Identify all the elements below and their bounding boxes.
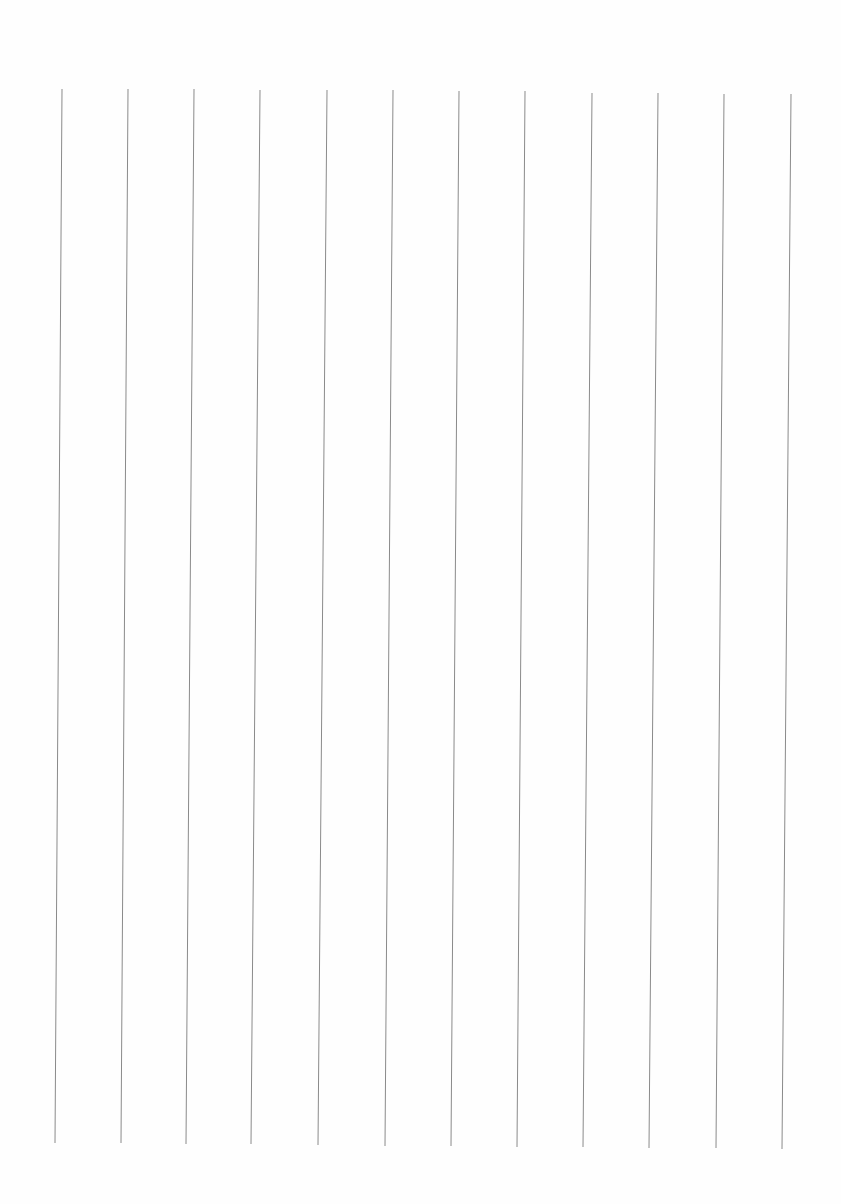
- vertical-rule-lines: [0, 0, 841, 1204]
- rule-line-9: [583, 93, 592, 1147]
- ruled-page: [0, 0, 841, 1204]
- rule-line-2: [121, 89, 128, 1143]
- rule-line-11: [716, 94, 724, 1148]
- rule-line-8: [517, 91, 525, 1147]
- rule-line-10: [649, 93, 658, 1148]
- rule-line-5: [318, 90, 327, 1145]
- rule-line-7: [451, 91, 459, 1146]
- rule-line-6: [385, 90, 393, 1146]
- rule-line-12: [782, 94, 791, 1149]
- rule-line-1: [55, 89, 62, 1143]
- rule-line-3: [186, 89, 194, 1144]
- rule-line-4: [251, 90, 260, 1144]
